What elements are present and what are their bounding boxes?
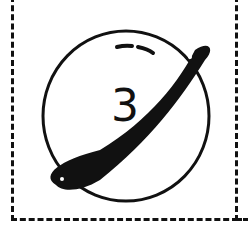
planet-number: 3 (108, 84, 142, 128)
